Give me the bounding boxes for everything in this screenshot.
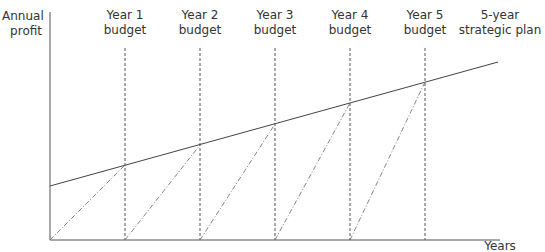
budget-dividers: [125, 48, 425, 240]
strategic-plan-line: [50, 62, 498, 186]
year-4-label: Year 4 budget: [320, 8, 380, 38]
y-axis-label: Annual profit: [2, 9, 42, 39]
year-1-label: Year 1 budget: [95, 8, 155, 38]
budget-lines: [50, 82, 425, 240]
year-5-label: Year 5 budget: [395, 8, 455, 38]
year-3-label: Year 3 budget: [245, 8, 305, 38]
year-2-label: Year 2 budget: [170, 8, 230, 38]
strategic-plan-label: 5-year strategic plan: [455, 8, 545, 38]
x-axis-label: Years: [470, 239, 530, 252]
